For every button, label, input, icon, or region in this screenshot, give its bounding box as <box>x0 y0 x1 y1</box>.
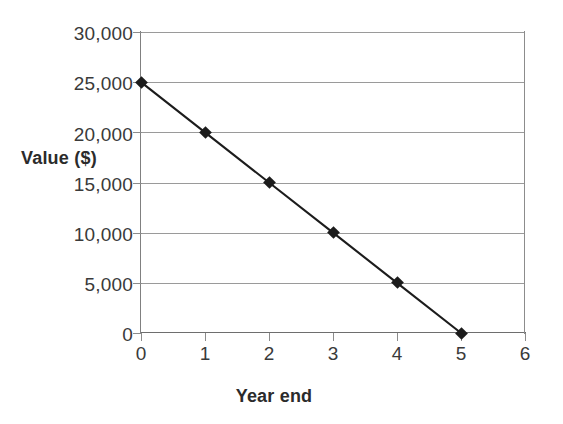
x-axis-title: Year end <box>0 386 563 407</box>
series-line-layer <box>0 0 563 424</box>
depreciation-line-chart: 30,000 25,000 20,000 15,000 10,000 5,000… <box>0 0 563 424</box>
series-line-value <box>141 82 461 333</box>
y-axis-title: Value ($) <box>21 148 97 169</box>
